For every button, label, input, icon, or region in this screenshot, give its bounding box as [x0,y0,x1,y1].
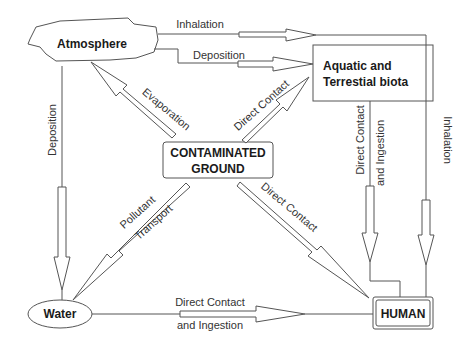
human-label: HUMAN [381,307,426,321]
edge-label-biota-human-2: and Ingestion [374,120,386,186]
edge-label-inhalation-top: Inhalation [176,18,224,30]
atmosphere-node: Atmosphere [28,18,158,61]
edge-ground-human: Direct Contact [237,180,369,298]
edge-label-inhalation-right: Inhalation [442,116,454,164]
edge-label-biota-human-1: Direct Contact [354,105,366,175]
edge-label-water-human-2: and Ingestion [177,319,243,331]
edge-inhalation-right: Inhalation [418,116,454,297]
water-node: Water [28,300,92,328]
edge-ground-biota: Direct Contact [231,77,309,143]
edge-atmosphere-deposition-biota: Deposition [154,49,313,71]
edge-label-deposition-water: Deposition [46,104,58,156]
edge-water-human: Direct Contact and Ingestion [92,296,373,331]
edge-biota-human: Direct Contact and Ingestion [354,101,400,297]
biota-node: Aquatic and Terrestial biota [313,45,433,101]
contaminated-ground-node: CONTAMINATED GROUND [163,142,273,178]
biota-label-line1: Aquatic and [323,59,392,73]
ground-label-line1: CONTAMINATED [170,146,266,160]
edge-atmosphere-deposition-water: Deposition [46,66,70,300]
biota-label-line2: Terrestial biota [323,75,408,89]
edge-evaporation: Evaporation [91,62,193,138]
exposure-pathway-diagram: Atmosphere Aquatic and Terrestial biota … [0,0,463,350]
ground-label-line2: GROUND [191,162,245,176]
atmosphere-label: Atmosphere [57,37,127,51]
edge-pollutant-transport: Pollutant Transport [73,183,190,300]
human-node: HUMAN [373,297,433,329]
edge-label-water-human-1: Direct Contact [175,296,245,308]
water-label: Water [44,307,77,321]
edge-label-deposition-biota: Deposition [193,49,245,61]
